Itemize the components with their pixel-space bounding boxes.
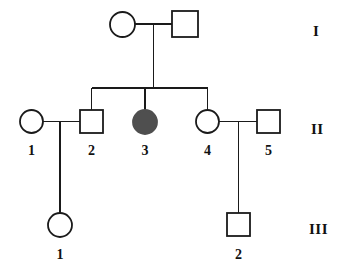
generation-label-iii: III	[309, 222, 328, 237]
individual-number-ii-4: 4	[204, 144, 211, 158]
generation-label-ii: II	[311, 122, 324, 137]
individual-number-iii-1: 1	[57, 248, 64, 262]
individual-symbols	[20, 11, 280, 237]
generation-label-i: I	[313, 24, 319, 39]
individual-number-ii-2: 2	[88, 144, 95, 158]
individual-i-2-male-unaffected[interactable]	[172, 11, 198, 37]
individual-iii-2-male-unaffected[interactable]	[227, 213, 250, 236]
individual-number-ii-5: 5	[265, 144, 272, 158]
individual-ii-1-female-unaffected[interactable]	[20, 110, 43, 133]
individual-ii-3-female-affected[interactable]	[133, 110, 157, 134]
individual-ii-2-male-unaffected[interactable]	[80, 110, 103, 133]
pedigree-chart: 1234512 IIIIII	[0, 0, 350, 276]
individual-i-1-female-unaffected[interactable]	[110, 12, 135, 37]
individual-number-iii-2: 2	[235, 248, 242, 262]
individual-ii-4-female-unaffected[interactable]	[196, 110, 219, 133]
individual-iii-1-female-unaffected[interactable]	[48, 213, 72, 237]
individual-ii-5-male-unaffected[interactable]	[257, 110, 280, 133]
individual-number-ii-3: 3	[142, 144, 149, 158]
individual-number-ii-1: 1	[28, 144, 35, 158]
pedigree-diagram	[0, 0, 350, 276]
